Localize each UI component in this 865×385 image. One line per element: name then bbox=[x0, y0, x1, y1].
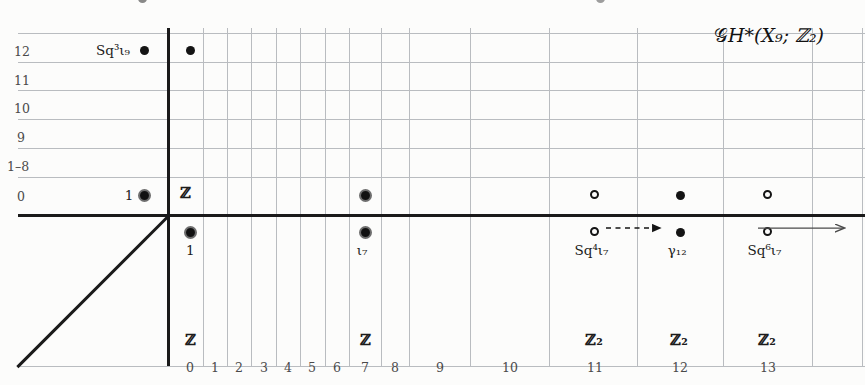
scan-artifact-dot-right bbox=[596, 0, 605, 3]
grid-vline-14 bbox=[812, 28, 813, 366]
bottom-group-13: ℤ₂ bbox=[758, 331, 776, 349]
grid-vline-2 bbox=[227, 28, 228, 366]
y-tick-0: 0 bbox=[17, 189, 25, 204]
marker-row12-col0 bbox=[186, 46, 195, 55]
bottom-group-0: ℤ bbox=[185, 331, 196, 349]
marker-col11-above bbox=[590, 190, 599, 199]
grid-vline-15 bbox=[862, 28, 863, 366]
x-tick-0: 0 bbox=[186, 360, 194, 375]
marker-col11-below bbox=[590, 227, 599, 236]
grid-vline-3 bbox=[251, 28, 252, 366]
x-tick-12: 12 bbox=[672, 360, 688, 375]
marker-label-col12-below: γ₁₂ bbox=[668, 242, 687, 258]
marker-label-col13-below: Sq⁶ι₇ bbox=[748, 242, 782, 258]
x-tick-4: 4 bbox=[284, 360, 292, 375]
marker-label-sq3-iota9-outside: Sq³ι₉ bbox=[96, 42, 130, 58]
bottom-group-7: ℤ bbox=[360, 331, 371, 349]
marker-label-col7-below: ι₇ bbox=[357, 242, 368, 258]
grid-hline-3 bbox=[18, 119, 865, 120]
grid-hline-4 bbox=[18, 148, 865, 149]
x-axis bbox=[18, 214, 865, 217]
spectral-sequence-chart: 𝒢H*(X₉; ℤ₂) 12 11 10 9 1–8 0 01234567891… bbox=[0, 0, 865, 385]
grid-vline-4 bbox=[276, 28, 277, 366]
grid-hline-5 bbox=[18, 177, 865, 178]
grid-vline-1 bbox=[203, 28, 204, 366]
x-tick-5: 5 bbox=[308, 360, 316, 375]
marker-col7-below bbox=[359, 226, 372, 239]
grid-vline-10 bbox=[470, 28, 471, 366]
x-tick-6: 6 bbox=[333, 360, 341, 375]
marker-sq3-iota9-outside bbox=[140, 46, 149, 55]
title-script-g: 𝒢 bbox=[714, 24, 728, 46]
title-h-star: H* bbox=[728, 24, 754, 46]
x-tick-13: 13 bbox=[760, 360, 776, 375]
bottom-group-11: ℤ₂ bbox=[585, 331, 603, 349]
x-tick-1: 1 bbox=[211, 360, 219, 375]
grid-vline-12 bbox=[637, 28, 638, 366]
marker-col13-above bbox=[763, 190, 772, 199]
x-tick-3: 3 bbox=[260, 360, 268, 375]
marker-col12-above bbox=[676, 191, 685, 200]
x-tick-9: 9 bbox=[436, 360, 444, 375]
grid-vline-11 bbox=[549, 28, 550, 366]
marker-one-outside bbox=[138, 189, 151, 202]
page-title: 𝒢H*(X₉; ℤ₂) bbox=[714, 24, 824, 47]
grid-hline-1 bbox=[18, 62, 865, 63]
marker-label-col11-below: Sq⁴ι₇ bbox=[575, 242, 609, 258]
title-arg: (X₉; ℤ₂) bbox=[754, 24, 824, 46]
y-axis bbox=[167, 28, 170, 366]
row-zero-group-z: ℤ bbox=[180, 184, 191, 202]
grid-vline-13 bbox=[723, 28, 724, 366]
edge-diagonal-line bbox=[16, 215, 169, 368]
differential-arrow-dashed bbox=[604, 222, 678, 240]
grid-vline-9 bbox=[409, 28, 410, 366]
marker-col0-below bbox=[184, 226, 197, 239]
continuation-arrow-solid bbox=[756, 222, 865, 240]
marker-label-one-outside: 1 bbox=[125, 187, 134, 203]
y-tick-9: 9 bbox=[17, 130, 25, 145]
grid-vline-8 bbox=[381, 28, 382, 366]
y-tick-11: 11 bbox=[14, 73, 30, 88]
y-tick-1-8: 1–8 bbox=[7, 159, 29, 174]
grid-vline-6 bbox=[325, 28, 326, 366]
x-tick-11: 11 bbox=[587, 360, 603, 375]
marker-col7-above bbox=[359, 189, 372, 202]
y-tick-12: 12 bbox=[14, 44, 30, 59]
x-tick-7: 7 bbox=[361, 360, 369, 375]
y-tick-10: 10 bbox=[14, 101, 30, 116]
x-tick-10: 10 bbox=[502, 360, 518, 375]
marker-label-col0-below: 1 bbox=[186, 242, 195, 258]
bottom-group-12: ℤ₂ bbox=[670, 331, 688, 349]
x-tick-8: 8 bbox=[391, 360, 399, 375]
grid-vline-7 bbox=[349, 28, 350, 366]
x-tick-2: 2 bbox=[235, 360, 243, 375]
scan-artifact-dot-left bbox=[138, 0, 147, 3]
grid-vline-5 bbox=[300, 28, 301, 366]
grid-hline-2 bbox=[18, 90, 865, 91]
